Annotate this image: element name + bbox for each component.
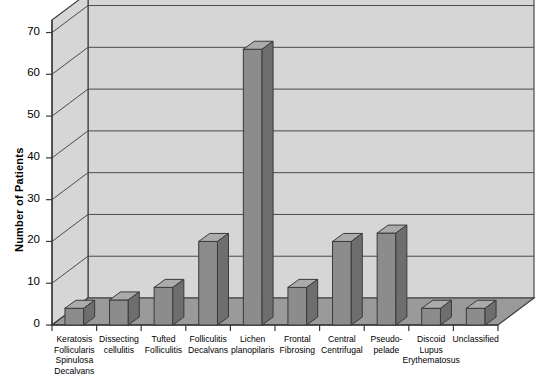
chart-canvas: [0, 0, 551, 386]
plot-left-wall: [52, 0, 88, 325]
y-tick-label: 60: [18, 66, 40, 78]
y-tick-label: 0: [18, 317, 40, 329]
bar: [154, 279, 184, 325]
bar: [199, 233, 229, 325]
bar: [288, 279, 318, 325]
y-tick-label: 70: [18, 25, 40, 37]
bar: [110, 292, 140, 325]
plot-back-wall: [88, 0, 534, 298]
y-tick-label: 10: [18, 275, 40, 287]
x-tick-label: Unclassified: [445, 334, 506, 345]
bar-chart: Number of Patients 010203040506070 Kerat…: [0, 0, 551, 386]
y-tick-label: 50: [18, 108, 40, 120]
y-tick-label: 40: [18, 150, 40, 162]
bar: [377, 225, 407, 325]
y-tick-label: 30: [18, 192, 40, 204]
y-tick-label: 20: [18, 233, 40, 245]
bar: [333, 233, 363, 325]
bar: [243, 41, 273, 325]
